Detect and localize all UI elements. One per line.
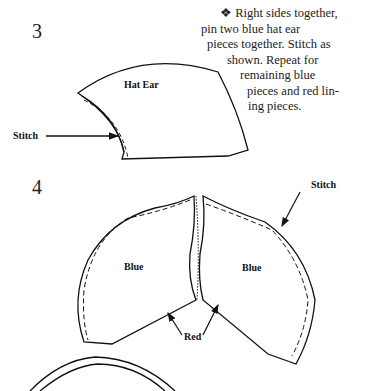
right-blue-piece bbox=[199, 196, 315, 364]
left-blue-label: Blue bbox=[124, 261, 143, 272]
right-blue-label: Blue bbox=[242, 262, 261, 273]
hat-ear-label: Hat Ear bbox=[124, 79, 159, 90]
hat-ear-piece bbox=[78, 64, 248, 159]
stitch-label-fig3: Stitch bbox=[13, 130, 38, 141]
pattern-illustration bbox=[0, 0, 366, 391]
red-label: Red bbox=[184, 331, 201, 342]
stitch-label-fig4: Stitch bbox=[311, 179, 336, 190]
